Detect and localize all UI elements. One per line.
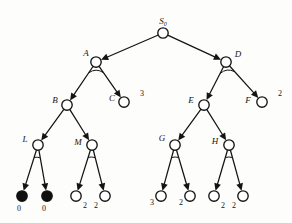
leaf-value-M1: 2 — [83, 201, 87, 210]
edge-arrowhead-B-to-L — [41, 133, 48, 141]
edge-arrowhead-G-to-G1 — [161, 183, 168, 191]
tree-node-C[interactable] — [119, 97, 129, 107]
and-connector-arc-L — [34, 157, 40, 158]
node-label-F: F — [244, 95, 251, 105]
edge-arrowhead-E-to-H — [219, 132, 226, 140]
tree-edge-E-to-H — [207, 110, 223, 136]
and-connector-arc-G — [172, 157, 179, 158]
tree-edge-D-to-F — [230, 66, 255, 93]
and-connector-arc-A — [89, 70, 104, 72]
tree-node-E[interactable] — [199, 100, 209, 110]
edge-arrowhead-M-to-M1 — [77, 183, 83, 191]
node-label-M: M — [73, 137, 82, 147]
leaf-value-G2: 2 — [179, 198, 183, 207]
tree-svg-canvas: S0ADBCEFLMGH 3200223222 — [0, 0, 292, 223]
tree-edge-L-to-L1 — [25, 150, 36, 185]
and-connector-arc-D — [220, 70, 235, 73]
tree-edge-H-to-H2 — [231, 150, 241, 185]
leaf-value-H1: 2 — [221, 201, 225, 210]
node-labels-layer: S0ADBCEFLMGH — [21, 16, 251, 147]
tree-edge-B-to-M — [70, 110, 86, 136]
node-label-E: E — [187, 95, 194, 105]
edge-arrowhead-A-to-B — [70, 93, 77, 101]
tree-node-A[interactable] — [91, 57, 101, 67]
leaf-value-L1: 0 — [17, 204, 21, 213]
leaf-value-L2: 0 — [42, 204, 46, 213]
tree-edge-S0-to-D — [168, 35, 216, 57]
tree-node-G2[interactable] — [185, 191, 195, 201]
tree-edge-E-to-G — [182, 110, 201, 136]
edge-arrowhead-E-to-G — [178, 133, 185, 141]
tree-edge-M-to-M1 — [79, 150, 90, 185]
edge-arrowhead-L-to-L1 — [23, 183, 29, 191]
nodes-layer — [17, 28, 267, 201]
node-label-subscript-S0: 0 — [164, 21, 167, 27]
tree-edge-G-to-G1 — [164, 150, 174, 185]
tree-node-H[interactable] — [224, 140, 234, 150]
tree-node-S0[interactable] — [158, 28, 168, 38]
node-label-H: H — [211, 136, 219, 146]
edge-arrowhead-L-to-L2 — [41, 183, 48, 191]
tree-edge-B-to-L — [45, 110, 64, 136]
edge-arrowhead-H-to-H1 — [214, 183, 221, 191]
edge-arrowhead-B-to-M — [82, 132, 89, 140]
edge-arrowhead-H-to-H2 — [236, 183, 243, 191]
tree-node-H1[interactable] — [209, 191, 219, 201]
and-arcs-layer — [34, 70, 235, 158]
tree-node-M[interactable] — [87, 140, 97, 150]
tree-edge-L-to-L2 — [39, 151, 45, 185]
tree-edge-S0-to-A — [106, 35, 157, 57]
edge-arrowhead-M-to-M2 — [99, 183, 106, 191]
tree-node-G1[interactable] — [156, 191, 166, 201]
tree-node-L1[interactable] — [17, 191, 27, 201]
leaf-value-C: 3 — [140, 89, 144, 98]
tree-edge-H-to-H1 — [217, 150, 227, 185]
tree-node-D[interactable] — [221, 57, 231, 67]
leaf-value-H2: 2 — [232, 201, 236, 210]
node-label-D: D — [234, 49, 242, 59]
tree-edge-M-to-M2 — [93, 151, 102, 186]
node-label-A: A — [82, 48, 89, 58]
and-or-tree-diagram: S0ADBCEFLMGH 3200223222 — [0, 0, 292, 223]
node-label-L: L — [21, 134, 27, 144]
node-label-G: G — [159, 133, 166, 143]
tree-edge-A-to-B — [73, 67, 93, 96]
node-label-C: C — [109, 93, 116, 103]
and-connector-arc-M — [88, 157, 95, 158]
node-label-S0: S0 — [159, 16, 167, 27]
tree-edge-G-to-G2 — [177, 150, 187, 185]
tree-edge-D-to-E — [209, 67, 223, 95]
tree-node-L2[interactable] — [42, 191, 52, 201]
and-connector-arc-H — [225, 157, 232, 158]
tree-node-F[interactable] — [257, 97, 267, 107]
tree-node-B[interactable] — [62, 100, 72, 110]
leaf-value-G1: 3 — [150, 198, 154, 207]
tree-edge-A-to-C — [99, 67, 117, 93]
tree-node-L[interactable] — [33, 140, 43, 150]
leaf-value-M2: 2 — [94, 201, 98, 210]
leaf-value-F: 2 — [278, 89, 282, 98]
tree-node-H2[interactable] — [238, 191, 248, 201]
edge-arrowhead-G-to-G2 — [183, 183, 190, 191]
node-label-B: B — [52, 95, 58, 105]
tree-node-M2[interactable] — [100, 191, 110, 201]
tree-node-G[interactable] — [170, 140, 180, 150]
tree-node-M1[interactable] — [71, 191, 81, 201]
